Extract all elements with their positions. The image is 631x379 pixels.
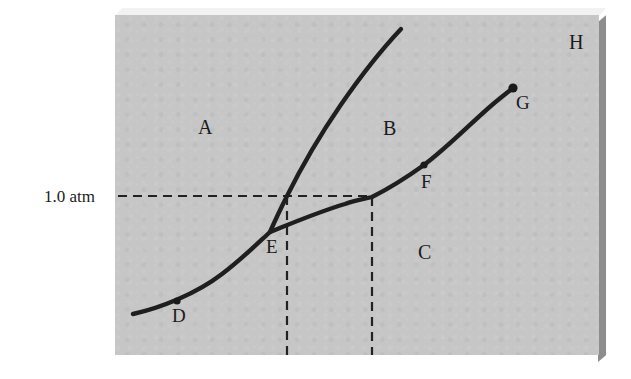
region-label-b: B	[383, 118, 396, 138]
pressure-reference-label: 1.0 atm	[44, 188, 95, 205]
point-label-e: E	[266, 237, 278, 256]
region-label-a: A	[198, 117, 212, 137]
point-label-d: D	[172, 306, 186, 325]
fusion-curve	[270, 29, 401, 232]
point-D-marker	[173, 297, 180, 304]
point-label-g: G	[516, 93, 530, 112]
phase-diagram-figure: 1.0 atm A B C H D E F G	[0, 0, 631, 379]
sublimation-vaporization-curve	[133, 88, 513, 314]
region-label-c: C	[418, 242, 431, 262]
point-F-marker	[420, 161, 427, 168]
point-label-f: F	[421, 172, 432, 191]
region-label-h: H	[569, 32, 583, 52]
